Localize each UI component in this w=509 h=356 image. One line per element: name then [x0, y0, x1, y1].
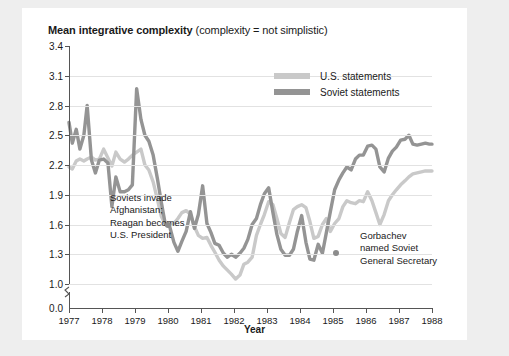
legend-item-soviet: Soviet statements: [274, 84, 399, 100]
y-tick-label: 1.9: [49, 189, 63, 200]
axis-break-icon: [63, 285, 77, 301]
y-axis-line: [69, 46, 70, 284]
gridline: [69, 284, 432, 285]
annotation-line: Soviets invade: [110, 192, 184, 204]
y-tick-label: 3.4: [49, 41, 63, 52]
x-tick: [102, 308, 103, 313]
legend-item-us: U.S. statements: [274, 68, 399, 84]
x-tick: [201, 308, 202, 313]
y-tick-label-zero: 0.0: [49, 303, 63, 314]
x-tick: [300, 308, 301, 313]
chart-card: Mean integrative complexity (complexity …: [22, 8, 467, 340]
y-tick-label: 2.5: [49, 130, 63, 141]
gridline: [69, 135, 432, 136]
annotation-line: General Secretary: [360, 255, 437, 267]
legend-label-soviet: Soviet statements: [320, 87, 399, 98]
x-tick: [399, 308, 400, 313]
x-axis-line: [69, 308, 432, 309]
annotation-line: named Soviet: [360, 242, 437, 254]
annotation-gorbachev: Gorbachevnamed SovietGeneral Secretary: [360, 230, 437, 267]
gridline: [69, 165, 432, 166]
annotation-soviets-invade: Soviets invadeAfghanistan;Reagan becomes…: [110, 192, 184, 242]
y-tick-label: 3.1: [49, 70, 63, 81]
chart-title: Mean integrative complexity (complexity …: [48, 24, 327, 36]
y-tick-label: 1.3: [49, 249, 63, 260]
annotation-marker-dot: [165, 222, 171, 228]
annotation-line: Reagan becomes: [110, 217, 184, 229]
annotation-line: Afghanistan;: [110, 204, 184, 216]
legend-swatch-soviet: [274, 89, 310, 95]
x-tick: [333, 308, 334, 313]
x-tick: [135, 308, 136, 313]
y-tick-label: 1.6: [49, 219, 63, 230]
legend: U.S. statements Soviet statements: [274, 68, 399, 100]
x-tick: [267, 308, 268, 313]
legend-label-us: U.S. statements: [320, 71, 391, 82]
x-tick: [432, 308, 433, 313]
x-axis-title: Year: [0, 324, 509, 335]
x-tick: [168, 308, 169, 313]
annotation-line: U.S. President: [110, 229, 184, 241]
y-tick-label: 2.8: [49, 100, 63, 111]
legend-swatch-us: [274, 73, 310, 79]
y-tick-label: 2.2: [49, 160, 63, 171]
chart-title-rest: (complexity = not simplistic): [193, 24, 328, 36]
y-tick-label: 1.0: [49, 279, 63, 290]
gridline: [69, 106, 432, 107]
annotation-line: Gorbachev: [360, 230, 437, 242]
chart-title-bold: Mean integrative complexity: [48, 24, 193, 36]
x-tick: [366, 308, 367, 313]
x-tick: [234, 308, 235, 313]
x-tick: [69, 308, 70, 313]
